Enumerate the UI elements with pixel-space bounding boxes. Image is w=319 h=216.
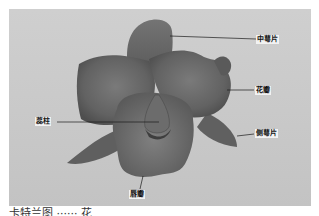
label-lateral-sepal: 侧萼片: [255, 129, 278, 138]
label-column: 蕊柱: [35, 117, 51, 126]
right-lateral-sepal: [197, 113, 237, 147]
label-petal: 花瓣: [255, 86, 271, 95]
leader-line-lip: [140, 176, 143, 189]
label-lip: 唇瓣: [129, 190, 145, 199]
orchid-photo: 中萼片 花瓣 侧萼片 蕊柱 唇瓣: [9, 9, 311, 206]
leader-line-dorsal-sepal: [170, 36, 256, 39]
label-dorsal-sepal: 中萼片: [256, 35, 279, 44]
leader-line-lateral-sepal: [237, 134, 254, 136]
figure-caption: 卡特兰图 ······ 花: [9, 208, 92, 216]
